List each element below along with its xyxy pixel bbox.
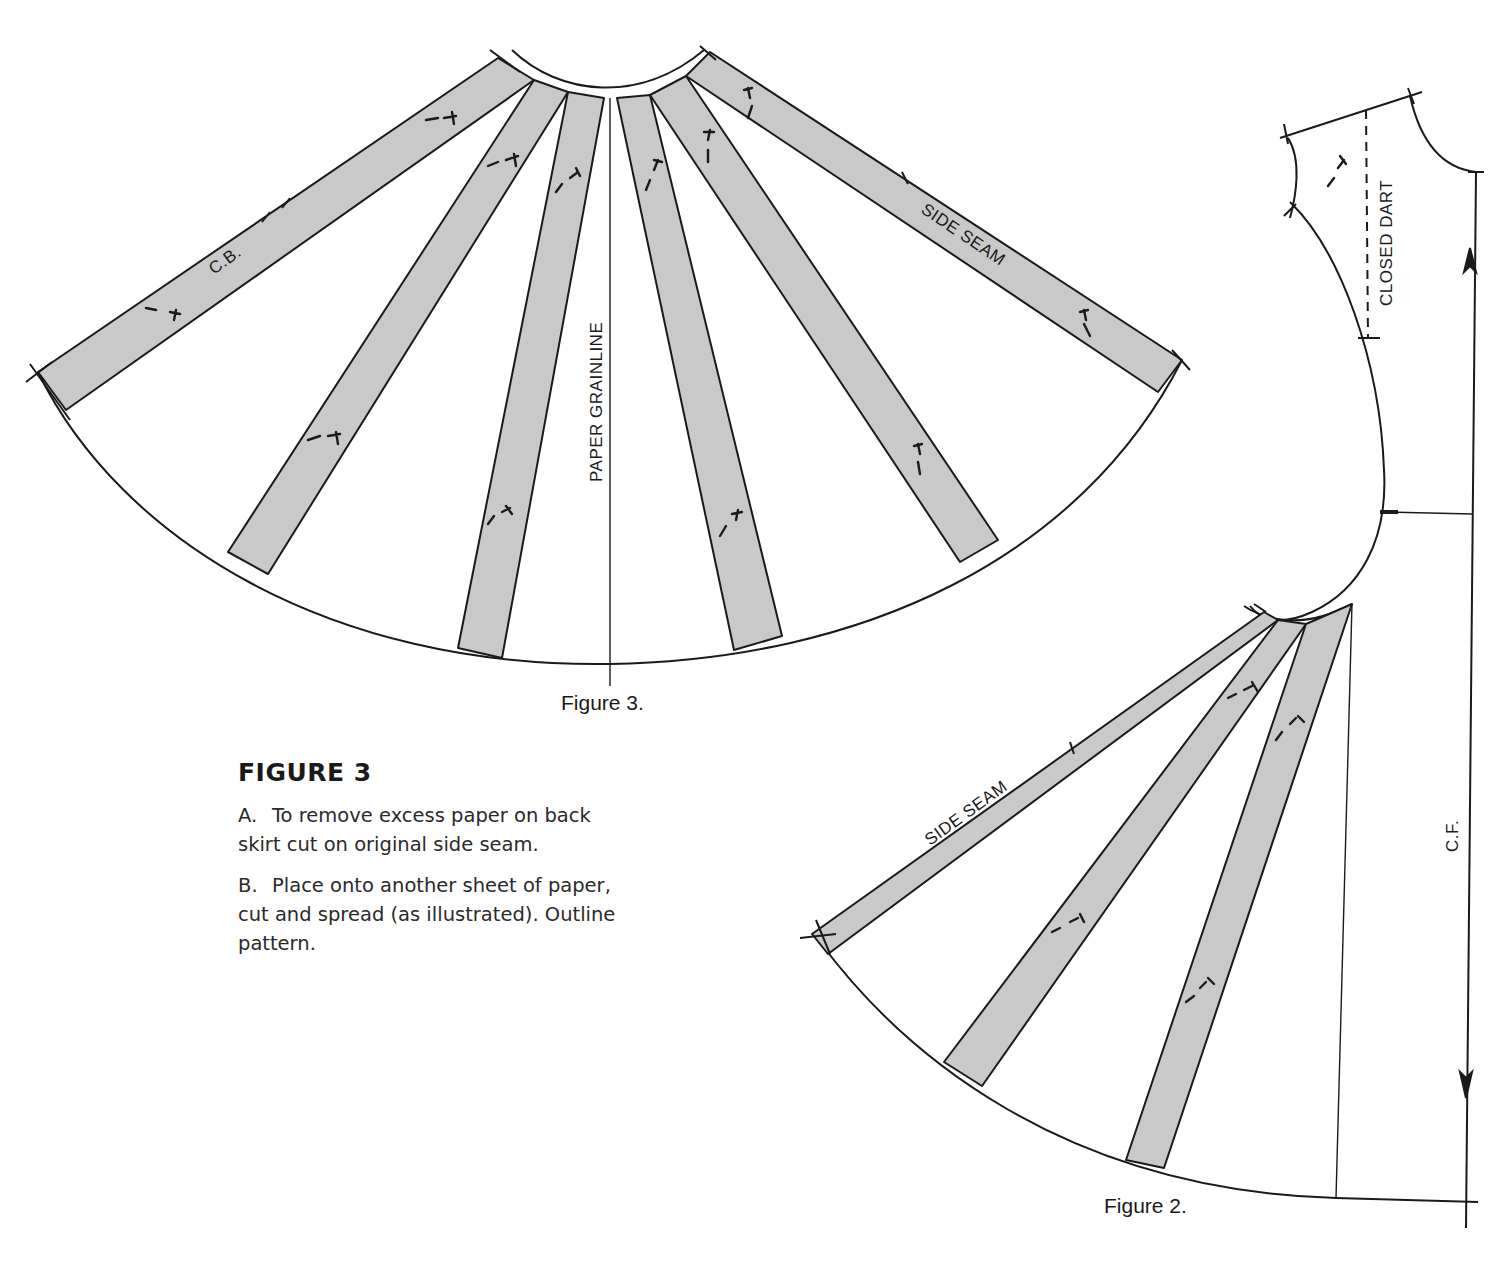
- fig3-cross-marks: [26, 46, 1190, 420]
- figure-3-diagram: C.B. SIDE SEAM PAPER GRAINLINE Figure 3.: [26, 46, 1190, 714]
- fig2-caption: Figure 2.: [1104, 1194, 1187, 1217]
- fig3-paper-grainline-label: PAPER GRAINLINE: [587, 322, 606, 482]
- fig3-caption: Figure 3.: [561, 691, 644, 714]
- fig2-cf-label: C.F.: [1443, 820, 1462, 852]
- fig2-grainline: [1336, 604, 1352, 1198]
- step-text: Place onto another sheet of paper, cut a…: [238, 874, 615, 955]
- fig3-gore-4: [617, 95, 782, 650]
- fig2-neckline-curve: [1410, 96, 1476, 172]
- fig2-cf-line: [1466, 172, 1476, 1228]
- fig2-closed-dart-line: [1366, 110, 1368, 338]
- fig2-side-curve: [1250, 202, 1384, 620]
- fig2-waist-line: [1386, 512, 1472, 514]
- step-text: To remove excess paper on back skirt cut…: [238, 804, 591, 856]
- fig2-shoulder-line: [1280, 92, 1422, 138]
- instruction-step-a: A.To remove excess paper on back skirt c…: [238, 801, 638, 859]
- instruction-step-b: B.Place onto another sheet of paper, cut…: [238, 871, 638, 958]
- fig2-neck-ticks: [1408, 88, 1484, 172]
- step-marker: A.: [238, 801, 272, 830]
- instructions-block: FIGURE 3 A.To remove excess paper on bac…: [238, 758, 638, 970]
- figure-2-diagram: CLOSED DART SIDE SEAM C.F. Figure 2.: [800, 88, 1484, 1228]
- fig2-closed-dart-label: CLOSED DART: [1377, 180, 1396, 306]
- pattern-diagram-canvas: C.B. SIDE SEAM PAPER GRAINLINE Figure 3.: [0, 0, 1496, 1265]
- instructions-heading: FIGURE 3: [238, 758, 638, 787]
- arrow-down-icon: [1460, 1072, 1472, 1098]
- fig2-gore-side-seam: [812, 612, 1278, 954]
- step-marker: B.: [238, 871, 272, 900]
